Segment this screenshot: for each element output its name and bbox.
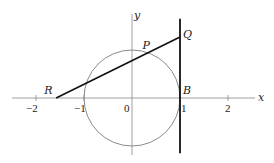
axes: x y −2−1012 — [12, 9, 265, 155]
segment-rq — [56, 37, 180, 98]
point-label-q: Q — [183, 28, 192, 41]
point-label-r: R — [43, 84, 52, 97]
x-axis-label: x — [258, 91, 265, 104]
x-tick-label: 0 — [124, 102, 130, 114]
y-axis-label: y — [133, 9, 141, 22]
x-tick-label: 2 — [225, 102, 231, 114]
x-tick-label: −2 — [26, 102, 38, 114]
x-tick-label: 1 — [181, 102, 187, 114]
point-label-p: P — [141, 39, 150, 52]
point-label-b: B — [182, 84, 191, 97]
diagram-canvas: x y −2−1012 R P Q B — [0, 0, 274, 163]
